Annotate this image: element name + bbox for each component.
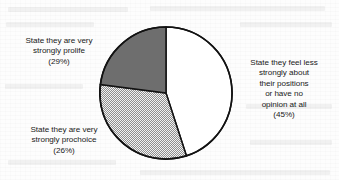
pie-label-prochoice-percent: (26%) bbox=[8, 146, 120, 156]
ghost-text-line bbox=[6, 22, 94, 27]
pie-label-prolife-line1: State they are very bbox=[10, 36, 108, 46]
pie-label-prochoice-line1: State they are very bbox=[8, 125, 120, 135]
pie-label-prolife-percent: (29%) bbox=[10, 57, 108, 67]
pie-label-less-strongly-percent: (45%) bbox=[236, 110, 332, 120]
pie-slice-prolife bbox=[100, 27, 166, 93]
pie-label-less-strongly-line2: strongly about bbox=[236, 68, 332, 78]
pie-label-less-strongly-line5: opinion at all bbox=[236, 100, 332, 110]
ghost-text-line bbox=[150, 6, 325, 11]
pie-label-prolife-line2: strongly prolife bbox=[10, 46, 108, 56]
ghost-text-line bbox=[240, 22, 332, 27]
pie-chart-figure: State they are very strongly prolife (29… bbox=[0, 0, 339, 180]
pie-label-prochoice-line2: strongly prochoice bbox=[8, 135, 120, 145]
ghost-text-line bbox=[5, 84, 83, 89]
ghost-text-line bbox=[140, 170, 330, 175]
ghost-text-line bbox=[8, 160, 116, 165]
ghost-text-line bbox=[250, 140, 332, 145]
pie-label-less-strongly-line1: State they feel less bbox=[236, 58, 332, 68]
pie-label-prochoice: State they are very strongly prochoice (… bbox=[8, 125, 120, 156]
pie-label-prolife: State they are very strongly prolife (29… bbox=[10, 36, 108, 67]
pie-label-less-strongly: State they feel less strongly about thei… bbox=[236, 58, 332, 120]
pie-label-less-strongly-line3: their positions bbox=[236, 79, 332, 89]
pie-label-less-strongly-line4: or have no bbox=[236, 89, 332, 99]
ghost-text-line bbox=[8, 7, 128, 12]
